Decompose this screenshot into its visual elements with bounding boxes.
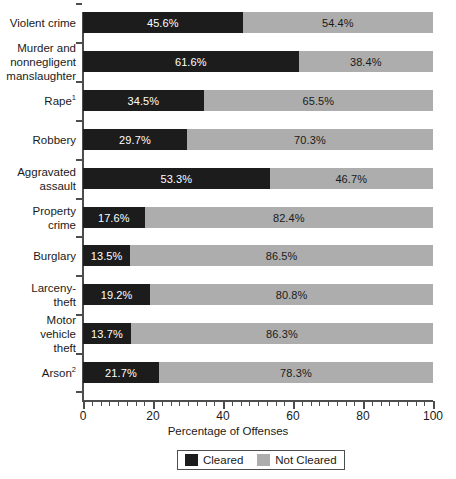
bar-value-label-not-cleared: 80.8% bbox=[276, 289, 308, 301]
y-axis-tick bbox=[76, 42, 82, 44]
x-axis-tick-label: 0 bbox=[80, 409, 87, 423]
x-axis-minor-tick bbox=[354, 401, 355, 406]
category-label: Murder andnonnegligentmanslaughter bbox=[6, 41, 76, 83]
x-axis-major-tick bbox=[433, 401, 435, 409]
x-axis-minor-tick bbox=[179, 401, 180, 406]
x-axis-minor-tick bbox=[214, 401, 215, 406]
x-axis-minor-tick bbox=[171, 401, 172, 406]
bar-value-label-cleared: 29.7% bbox=[119, 134, 151, 146]
x-axis-major-tick bbox=[153, 401, 155, 409]
x-axis-minor-tick bbox=[302, 401, 303, 406]
stacked-bar-chart: 45.6%54.4%61.6%38.4%34.5%65.5%29.7%70.3%… bbox=[0, 0, 456, 479]
category-label-line: theft bbox=[40, 341, 76, 355]
category-label: Burglary bbox=[33, 249, 76, 263]
legend-label-cleared: Cleared bbox=[203, 454, 243, 466]
category-label-line: crime bbox=[33, 218, 76, 232]
y-axis-tick bbox=[76, 275, 82, 277]
bar-segment-cleared: 61.6% bbox=[83, 51, 299, 72]
x-axis-title: Percentage of Offenses bbox=[0, 425, 456, 437]
y-axis-tick bbox=[76, 236, 82, 238]
x-axis-minor-tick bbox=[337, 401, 338, 406]
chart-legend: Cleared Not Cleared bbox=[177, 450, 345, 470]
bar-row: 13.5%86.5% bbox=[83, 245, 433, 266]
legend-item-not-cleared: Not Cleared bbox=[257, 454, 336, 466]
bar-value-label-cleared: 19.2% bbox=[101, 289, 133, 301]
x-axis-minor-tick bbox=[381, 401, 382, 406]
x-axis-major-tick bbox=[83, 401, 85, 409]
y-axis-tick bbox=[76, 120, 82, 122]
y-axis-tick bbox=[76, 353, 82, 355]
bar-segment-cleared: 29.7% bbox=[83, 129, 187, 150]
bar-row: 34.5%65.5% bbox=[83, 90, 433, 111]
category-label: Larceny-theft bbox=[31, 281, 76, 309]
bar-row: 19.2%80.8% bbox=[83, 284, 433, 305]
x-axis-minor-tick bbox=[241, 401, 242, 406]
bar-segment-not-cleared: 80.8% bbox=[150, 284, 433, 305]
bar-segment-cleared: 45.6% bbox=[83, 12, 243, 33]
bar-segment-not-cleared: 86.5% bbox=[130, 245, 433, 266]
x-axis-minor-tick bbox=[118, 401, 119, 406]
x-axis-minor-tick bbox=[372, 401, 373, 406]
bar-value-label-not-cleared: 86.5% bbox=[266, 250, 298, 262]
x-axis-minor-tick bbox=[328, 401, 329, 406]
bar-value-label-not-cleared: 70.3% bbox=[294, 134, 326, 146]
category-label: Propertycrime bbox=[33, 204, 76, 232]
x-axis-tick-label: 100 bbox=[423, 409, 443, 423]
y-axis-tick bbox=[76, 198, 82, 200]
x-axis-major-tick bbox=[293, 401, 295, 409]
legend-swatch-cleared bbox=[185, 454, 198, 466]
bar-value-label-not-cleared: 86.3% bbox=[266, 328, 298, 340]
x-axis-minor-tick bbox=[407, 401, 408, 406]
category-label-line: Larceny- bbox=[31, 281, 76, 295]
category-label-line: Aggravated bbox=[17, 165, 76, 179]
bar-segment-not-cleared: 70.3% bbox=[187, 129, 433, 150]
bar-segment-not-cleared: 65.5% bbox=[204, 90, 433, 111]
category-label-footnote: 2 bbox=[72, 365, 76, 374]
y-axis-tick bbox=[76, 81, 82, 83]
bar-segment-not-cleared: 82.4% bbox=[145, 207, 433, 228]
bar-row: 61.6%38.4% bbox=[83, 51, 433, 72]
x-axis-minor-tick bbox=[346, 401, 347, 406]
x-axis-minor-tick bbox=[206, 401, 207, 406]
x-axis-minor-tick bbox=[319, 401, 320, 406]
x-axis-tick-group bbox=[83, 401, 433, 411]
x-axis-minor-tick bbox=[389, 401, 390, 406]
x-axis-minor-tick bbox=[249, 401, 250, 406]
x-axis-minor-tick bbox=[144, 401, 145, 406]
bar-value-label-cleared: 53.3% bbox=[160, 173, 192, 185]
bar-segment-not-cleared: 38.4% bbox=[299, 51, 433, 72]
category-label-line: Burglary bbox=[33, 249, 76, 263]
plot-area: 45.6%54.4%61.6%38.4%34.5%65.5%29.7%70.3%… bbox=[83, 12, 433, 402]
category-label-line: Motor bbox=[40, 313, 76, 327]
x-axis-minor-tick bbox=[398, 401, 399, 406]
x-axis-minor-tick bbox=[136, 401, 137, 406]
bar-segment-cleared: 13.7% bbox=[83, 323, 131, 344]
category-label-line: Property bbox=[33, 204, 76, 218]
category-label: Aggravatedassault bbox=[17, 165, 76, 193]
legend-item-cleared: Cleared bbox=[185, 454, 243, 466]
category-label-line: Violent crime bbox=[10, 16, 76, 30]
x-axis-tick-label: 80 bbox=[356, 409, 369, 423]
bar-row: 17.6%82.4% bbox=[83, 207, 433, 228]
bar-value-label-cleared: 13.5% bbox=[91, 250, 123, 262]
category-label: Rape1 bbox=[44, 94, 76, 108]
category-label-line: vehicle bbox=[40, 327, 76, 341]
y-axis-tick bbox=[76, 391, 82, 393]
bar-row: 21.7%78.3% bbox=[83, 362, 433, 383]
category-label: Robbery bbox=[33, 133, 76, 147]
bar-value-label-cleared: 17.6% bbox=[98, 212, 130, 224]
bar-segment-cleared: 13.5% bbox=[83, 245, 130, 266]
x-axis-minor-tick bbox=[109, 401, 110, 406]
x-axis-minor-tick bbox=[276, 401, 277, 406]
bar-value-label-not-cleared: 38.4% bbox=[350, 56, 382, 68]
category-label-line: nonnegligent bbox=[6, 55, 76, 69]
category-label-line: assault bbox=[17, 179, 76, 193]
legend-swatch-not-cleared bbox=[257, 454, 270, 466]
bar-segment-not-cleared: 86.3% bbox=[131, 323, 433, 344]
bar-row: 29.7%70.3% bbox=[83, 129, 433, 150]
category-label: Violent crime bbox=[10, 16, 76, 30]
bar-segment-not-cleared: 46.7% bbox=[270, 168, 433, 189]
bar-segment-cleared: 19.2% bbox=[83, 284, 150, 305]
x-axis-minor-tick bbox=[92, 401, 93, 406]
legend-label-not-cleared: Not Cleared bbox=[275, 454, 336, 466]
